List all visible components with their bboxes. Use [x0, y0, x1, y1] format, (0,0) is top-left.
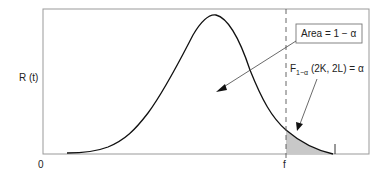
critical-value-label: f	[283, 159, 286, 170]
area-arrow-head-icon	[216, 84, 227, 92]
y-axis-label: R (t)	[19, 72, 38, 83]
f-distribution-diagram: Area = 1 − α F1−α (2K, 2L) = α R (t) 0 f	[0, 0, 387, 173]
origin-label: 0	[38, 159, 44, 170]
tail-arrow-head-icon	[296, 122, 303, 131]
area-arrow-line	[222, 41, 296, 88]
area-label: Area = 1 − α	[301, 28, 356, 39]
tail-shaded-area	[286, 130, 333, 154]
tail-label: F1−α (2K, 2L) = α	[290, 63, 364, 76]
density-curve	[67, 15, 333, 154]
tail-arrow-line	[300, 79, 317, 124]
